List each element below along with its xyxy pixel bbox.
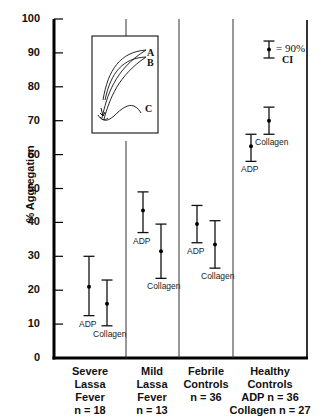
aggregation-chart: 0102030405060708090100% AggregationABCAD… — [0, 0, 325, 420]
adp-label: ADP — [241, 164, 258, 174]
legend-text-ci: CI — [282, 54, 293, 65]
category-label-line: Collagen n = 27 — [225, 404, 315, 417]
adp-mean-point — [141, 209, 145, 213]
y-tick-label: 0 — [14, 351, 40, 363]
category-label-line: n = 13 — [107, 404, 197, 417]
adp-label: ADP — [187, 246, 204, 256]
category-label-line: Healthy — [225, 365, 315, 378]
category-label-line: ADP n = 36 — [225, 391, 315, 404]
inset-label-b: B — [147, 57, 154, 68]
collagen-label: Collagen — [93, 329, 127, 339]
collagen-mean-point — [105, 302, 109, 306]
category-label-line: Controls — [225, 378, 315, 391]
y-tick-label: 10 — [14, 317, 40, 329]
adp-mean-point — [87, 285, 91, 289]
collagen-mean-point — [267, 119, 271, 123]
legend-mean-point — [267, 48, 271, 52]
collagen-mean-point — [159, 249, 163, 253]
collagen-label: Collagen — [201, 271, 235, 281]
collagen-mean-point — [213, 242, 217, 246]
y-tick-label: 90 — [14, 46, 40, 58]
collagen-label: Collagen — [255, 137, 289, 147]
y-tick-label: 100 — [14, 12, 40, 24]
legend-text-90: = 90% — [276, 43, 305, 54]
category-label: HealthyControlsADP n = 36Collagen n = 27 — [225, 365, 315, 417]
adp-mean-point — [249, 144, 253, 148]
adp-mean-point — [195, 222, 199, 226]
plot-area — [0, 0, 325, 420]
y-tick-label: 80 — [14, 80, 40, 92]
inset-label-c: C — [145, 103, 152, 114]
collagen-label: Collagen — [147, 281, 181, 291]
y-tick-label: 20 — [14, 283, 40, 295]
y-axis-label: % Aggregation — [24, 124, 36, 244]
adp-label: ADP — [133, 236, 150, 246]
adp-label: ADP — [79, 319, 96, 329]
y-tick-label: 30 — [14, 249, 40, 261]
